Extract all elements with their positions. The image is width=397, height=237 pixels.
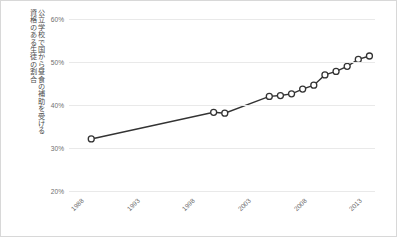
x-axis-tick-label: 1998	[181, 197, 196, 212]
data-point-marker[interactable]	[333, 68, 339, 74]
data-point-marker[interactable]	[366, 53, 372, 59]
data-point-marker[interactable]	[289, 91, 295, 97]
data-point-marker[interactable]	[266, 93, 272, 99]
x-axis-tick-label: 2013	[348, 197, 363, 212]
data-point-marker[interactable]	[211, 109, 217, 115]
chart-figure: 公立学校で国から昼食の補助を受ける 資格のある生徒の割合 20%30%40%50…	[0, 0, 397, 237]
series-polyline	[91, 56, 369, 139]
y-axis-tick-label: 60%	[51, 16, 64, 23]
y-axis-tick-label: 40%	[51, 102, 64, 109]
y-axis-tick-label: 30%	[51, 145, 64, 152]
y-gridline	[69, 191, 375, 192]
x-axis-tick-label: 1993	[125, 197, 140, 212]
x-axis-tick-label: 2008	[292, 197, 307, 212]
y-gridline	[69, 19, 375, 20]
y-gridline	[69, 62, 375, 63]
y-axis-title: 公立学校で国から昼食の補助を受ける 資格のある生徒の割合	[17, 9, 45, 195]
data-point-marker[interactable]	[277, 93, 283, 99]
data-point-marker[interactable]	[222, 110, 228, 116]
y-axis-tick-label: 20%	[51, 188, 64, 195]
data-point-marker[interactable]	[88, 136, 94, 142]
data-point-marker[interactable]	[344, 63, 350, 69]
data-point-marker[interactable]	[300, 86, 306, 92]
x-axis-tick-label: 1988	[70, 197, 85, 212]
data-point-marker[interactable]	[311, 82, 317, 88]
y-gridline	[69, 148, 375, 149]
y-axis-title-line-1: 公立学校で国から昼食の補助を受ける	[37, 9, 45, 135]
y-axis-tick-label: 50%	[51, 59, 64, 66]
data-point-marker[interactable]	[322, 72, 328, 78]
y-gridline	[69, 105, 375, 106]
plot-area: 20%30%40%50%60%198819931998200320082013	[69, 19, 375, 191]
x-axis-tick-label: 2003	[237, 197, 252, 212]
